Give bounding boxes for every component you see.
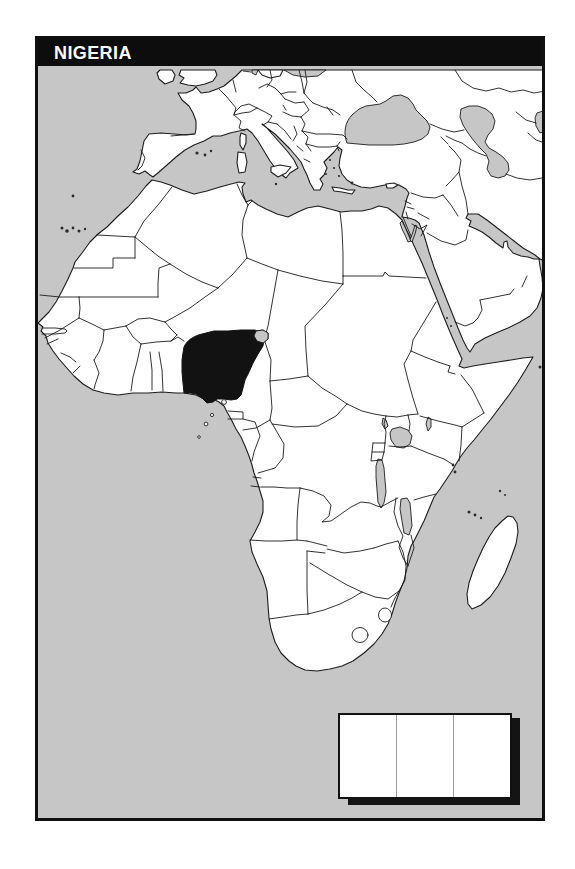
legend-box (338, 713, 512, 799)
title-bar: NIGERIA (38, 39, 542, 66)
africa-locator-map (38, 66, 542, 818)
legend-cell (453, 715, 510, 797)
sardinia-island (237, 152, 247, 173)
legend-cell (396, 715, 453, 797)
atlas-page: NIGERIA (0, 0, 575, 869)
map-title: NIGERIA (38, 44, 132, 62)
legend-cell (340, 715, 396, 797)
